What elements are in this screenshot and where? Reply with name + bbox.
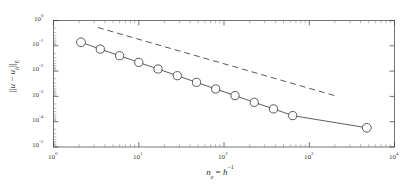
data-point-marker	[77, 38, 86, 47]
x-tick-label-3: 103	[304, 152, 314, 161]
x-axis-label: ne = h−1	[160, 166, 280, 179]
y-tick-label-3: 10-3	[32, 90, 43, 99]
figure-background	[0, 0, 417, 187]
data-point-marker	[289, 112, 297, 120]
plot-canvas	[0, 0, 417, 187]
y-axis-label: ||u − uh||E	[7, 41, 19, 111]
y-tick-label-5: 10-5	[32, 140, 43, 149]
data-point-marker	[212, 85, 220, 93]
data-point-marker	[250, 98, 258, 106]
data-point-marker	[231, 92, 239, 100]
x-tick-label-2: 102	[218, 152, 228, 161]
data-point-marker	[269, 105, 277, 113]
x-tick-label-1: 101	[133, 152, 143, 161]
y-tick-label-2: 10-2	[32, 64, 43, 73]
data-point-marker	[192, 78, 200, 86]
y-tick-label-4: 10-4	[32, 115, 43, 124]
convergence-plot-figure: 100 10-1 10-2 10-3 10-4 10-5 100 101 102…	[0, 0, 417, 187]
y-tick-label-1: 10-1	[32, 39, 43, 48]
data-point-marker	[154, 65, 162, 73]
data-point-marker	[173, 72, 181, 80]
data-point-marker	[362, 123, 371, 132]
x-tick-label-0: 100	[48, 152, 58, 161]
x-tick-label-4: 104	[389, 152, 399, 161]
y-tick-label-0: 100	[34, 14, 44, 23]
data-point-marker	[96, 45, 104, 53]
data-point-marker	[116, 52, 124, 60]
data-point-marker	[135, 58, 143, 66]
